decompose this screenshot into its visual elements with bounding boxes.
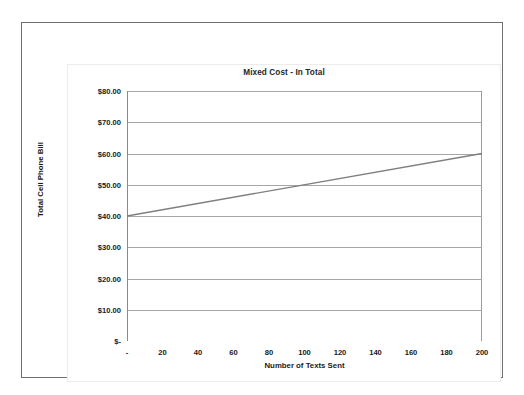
x-axis-tick-labels: -20406080100120140160180200 [127,348,482,362]
x-tick-label: - [126,348,129,357]
y-tick-label: $40.00 [77,212,121,221]
chart-title: Mixed Cost - In Total [67,64,501,77]
x-tick-label: 200 [476,348,489,357]
x-tick-label: 160 [405,348,418,357]
y-tick-label: $50.00 [77,180,121,189]
x-axis-title: Number of Texts Sent [127,361,482,370]
data-series-layer [127,91,482,341]
x-tick-label: 20 [158,348,166,357]
y-tick-label: $20.00 [77,274,121,283]
x-tick-label: 60 [229,348,237,357]
y-tick-label: $70.00 [77,118,121,127]
photo-page-frame: Mixed Cost - In Total $80.00$70.00$60.00… [21,22,503,378]
y-axis-title: Total Cell Phone Bill [36,120,45,240]
x-tick-label: 120 [334,348,347,357]
x-tick-label: 140 [369,348,382,357]
x-tick-label: 100 [298,348,311,357]
y-tick-label: $80.00 [77,87,121,96]
y-tick-label: $10.00 [77,305,121,314]
x-tick-label: 80 [265,348,273,357]
y-tick-label: $30.00 [77,243,121,252]
x-tick-label: 40 [194,348,202,357]
x-tick-label: 180 [440,348,453,357]
mixed-cost-line [127,154,482,217]
y-tick-label: $60.00 [77,149,121,158]
y-tick-label: $- [77,337,121,346]
y-axis-tick-labels: $80.00$70.00$60.00$50.00$40.00$30.00$20.… [77,91,121,341]
